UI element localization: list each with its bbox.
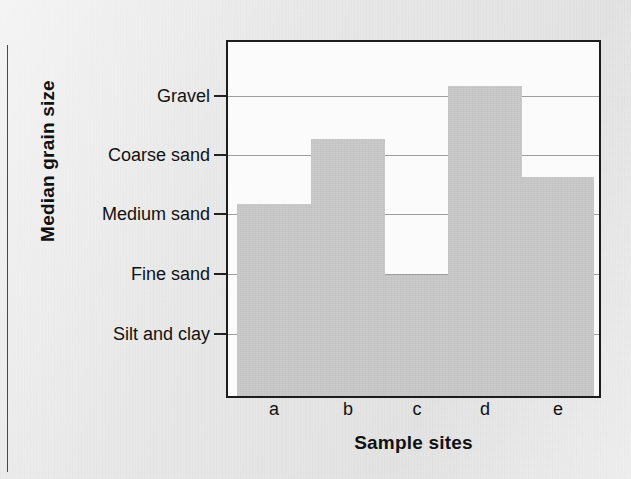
x-tick-label-a: a: [269, 400, 279, 418]
bar-a[interactable]: [237, 204, 311, 396]
y-tick-label-medium-sand: Medium sand: [102, 205, 210, 223]
bar-e[interactable]: [522, 177, 594, 396]
page-margin-rule: [7, 45, 8, 472]
y-tick-label-gravel: Gravel: [157, 87, 210, 105]
bar-d[interactable]: [448, 86, 522, 396]
figure-canvas: Median grain size Gravel Coarse sand Med…: [0, 0, 631, 479]
y-tick-label-fine-sand: Fine sand: [131, 265, 210, 283]
gridline-coarse-sand: [228, 155, 599, 156]
y-tick-label-coarse-sand: Coarse sand: [108, 146, 210, 164]
bar-c[interactable]: [385, 275, 448, 396]
bar-b[interactable]: [311, 139, 385, 396]
y-axis-tick-label-group: Gravel Coarse sand Medium sand Fine sand…: [62, 0, 210, 479]
x-tick-label-e: e: [553, 400, 563, 418]
x-tick-label-d: d: [480, 400, 490, 418]
y-tick-label-silt-and-clay: Silt and clay: [113, 325, 210, 343]
gridline-gravel: [228, 96, 599, 97]
x-tick-label-c: c: [413, 400, 422, 418]
x-axis-title: Sample sites: [226, 432, 601, 454]
y-axis-title: Median grain size: [37, 71, 59, 251]
x-tick-label-b: b: [343, 400, 353, 418]
plot-area: [226, 40, 601, 398]
